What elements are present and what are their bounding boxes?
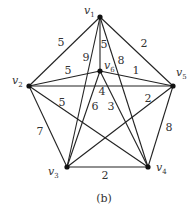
edge-weight-label: 4 bbox=[99, 85, 106, 98]
edge-weight-label: 2 bbox=[102, 169, 109, 182]
edge-weight-label: 2 bbox=[141, 37, 148, 50]
node-label-v5: v5 bbox=[176, 66, 187, 81]
node-label-v4: v4 bbox=[156, 161, 167, 176]
edge-weight-label: 5 bbox=[65, 64, 72, 77]
edge-weight-label: 8 bbox=[118, 54, 125, 67]
edge-v6-v4 bbox=[100, 71, 148, 167]
edge-weight-label: 3 bbox=[108, 100, 115, 113]
edge-weight-label: 5 bbox=[58, 36, 65, 49]
node-v1 bbox=[97, 14, 102, 19]
node-label-v2: v2 bbox=[12, 74, 23, 89]
node-label-v3: v3 bbox=[48, 165, 59, 180]
edge-v5-v3 bbox=[67, 86, 173, 167]
edge-weight-label: 1 bbox=[133, 64, 140, 77]
edge-v6-v3 bbox=[67, 71, 100, 167]
edge-weight-label: 8 bbox=[166, 121, 173, 134]
edge-weight-label: 7 bbox=[37, 125, 44, 138]
node-v4 bbox=[145, 164, 150, 169]
figure-caption: (b) bbox=[96, 192, 112, 205]
node-label-v1: v1 bbox=[84, 4, 95, 19]
node-label-v6: v6 bbox=[104, 59, 115, 74]
edge-weight-label: 5 bbox=[101, 38, 108, 51]
edge-weights-group: 525985145632782 bbox=[37, 36, 173, 182]
edge-weight-label: 6 bbox=[92, 100, 99, 113]
edge-v1-v3 bbox=[67, 17, 100, 167]
edge-weight-label: 9 bbox=[83, 51, 90, 64]
edge-weight-label: 2 bbox=[145, 92, 152, 105]
node-v3 bbox=[64, 164, 69, 169]
edge-v2-v4 bbox=[29, 86, 148, 167]
edge-weight-label: 5 bbox=[59, 96, 66, 109]
node-v6 bbox=[97, 68, 102, 73]
node-v2 bbox=[26, 83, 31, 88]
graph-diagram: 525985145632782 v1v2v3v4v5v6 (b) bbox=[0, 0, 194, 212]
node-v5 bbox=[170, 83, 175, 88]
